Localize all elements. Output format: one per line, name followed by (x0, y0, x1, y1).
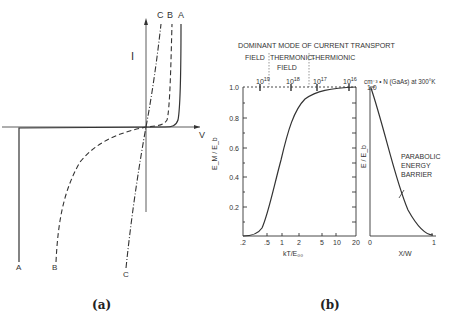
right-xlabel: X/W (398, 250, 412, 257)
left-xlabel: kT/E₀₀ (283, 250, 303, 257)
annotation-line-2: ENERGY (401, 162, 431, 169)
top-tick-17: 1017 (313, 76, 327, 85)
regime-thermionic: THERMIONIC (311, 54, 355, 61)
curve-label-b-bottom: B (52, 263, 57, 272)
top-tick-16: 1016 (343, 76, 357, 85)
v-axis-arrow-icon (194, 125, 200, 129)
annotation-line-3: BARRIER (401, 171, 432, 178)
i-axis-arrow-icon (144, 18, 148, 25)
i-axis-label: I (131, 50, 134, 62)
caption-a: (a) (92, 298, 111, 312)
top-axis: 1019 1018 1017 1016 cm⁻³ • N (GaAs) at 3… (256, 76, 436, 86)
panel-a (2, 18, 200, 268)
curve-label-a-bottom: A (16, 263, 22, 272)
right-ytick-1-0: 1.0 (367, 84, 377, 91)
xtick-1: 1 (280, 239, 284, 246)
xtick-5: 5 (320, 239, 324, 246)
right-xtick-1: 1 (432, 239, 436, 246)
ytick-0-8: 0.8 (229, 115, 239, 122)
ytick-0-4: 0.4 (229, 174, 239, 181)
top-tick-19: 1019 (256, 76, 270, 85)
left-ylabel: E_M / E_b (211, 137, 219, 170)
xtick-2: 2 (297, 239, 301, 246)
annotation-line-1: PARABOLIC (401, 153, 441, 160)
xtick-0-2: .2 (240, 239, 246, 246)
transport-header: DOMINANT MODE OF CURRENT TRANSPORT (238, 41, 395, 50)
regime-field: FIELD (245, 54, 265, 61)
xtick-0-5: .5 (264, 239, 270, 246)
right-xtick-0: 0 (368, 239, 372, 246)
right-plot-labels: 1.0 E / E_b 0 1 X/W PARABOLIC ENERGY BAR… (360, 84, 441, 257)
curve-label-c-bottom: C (123, 270, 129, 279)
ytick-0-6: 0.6 (229, 145, 239, 152)
caption-b: (b) (320, 298, 340, 312)
panel-a-labels: I V C B A A B C (a) (16, 10, 205, 312)
curve-label-c-top: C (157, 10, 164, 20)
v-axis-label: V (199, 130, 205, 140)
ytick-1-0: 1.0 (229, 84, 239, 91)
left-plot (243, 84, 356, 236)
xtick-10: 10 (333, 239, 341, 246)
curve-label-a-top: A (178, 10, 184, 20)
curve-label-b-top: B (167, 10, 173, 20)
curve-b (56, 24, 172, 262)
ytick-0-2: 0.2 (229, 204, 239, 211)
right-ylabel: E / E_b (360, 145, 368, 168)
regime-thermionic-field-2: FIELD (277, 64, 297, 71)
left-plot-labels: 1.0 0.8 0.6 0.4 0.2 E_M / E_b .2 .5 1 2 … (211, 84, 360, 257)
regime-thermionic-field-1: THERMONIC- (270, 54, 315, 61)
figure-canvas: I V C B A A B C (a) DOMINANT MODE OF CUR… (0, 0, 457, 324)
xtick-20: 20 (352, 239, 360, 246)
top-tick-18: 1018 (286, 76, 300, 85)
em-eb-curve (243, 87, 356, 236)
